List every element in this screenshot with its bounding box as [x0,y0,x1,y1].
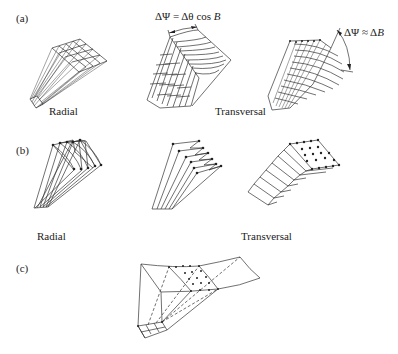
panel-b-radial [34,139,102,208]
panel-a-radial-fan [30,39,107,108]
diagram-canvas [0,0,398,354]
dot-grid [289,139,340,170]
panel-a-transversal-right [268,28,353,110]
panel-a-transversal-middle [147,24,231,108]
panel-b-transversal-stack [248,139,340,205]
panel-c-combined [137,257,260,338]
panel-b-transversal-middle [152,140,222,209]
